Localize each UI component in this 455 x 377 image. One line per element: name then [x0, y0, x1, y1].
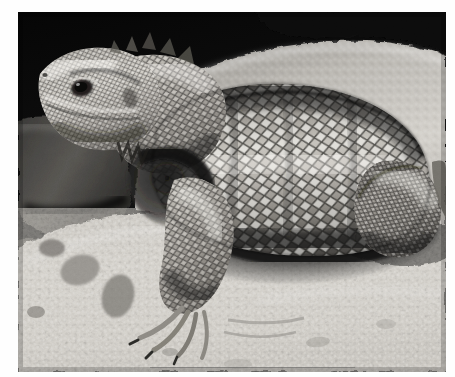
film-grain-overlay — [18, 12, 446, 372]
document-page: spiny lizard resting on sand, facing lef… — [0, 0, 455, 377]
photograph: spiny lizard resting on sand, facing lef… — [18, 12, 446, 372]
photograph-canvas: spiny lizard resting on sand, facing lef… — [18, 12, 446, 372]
page-baseline-rule — [150, 367, 355, 368]
